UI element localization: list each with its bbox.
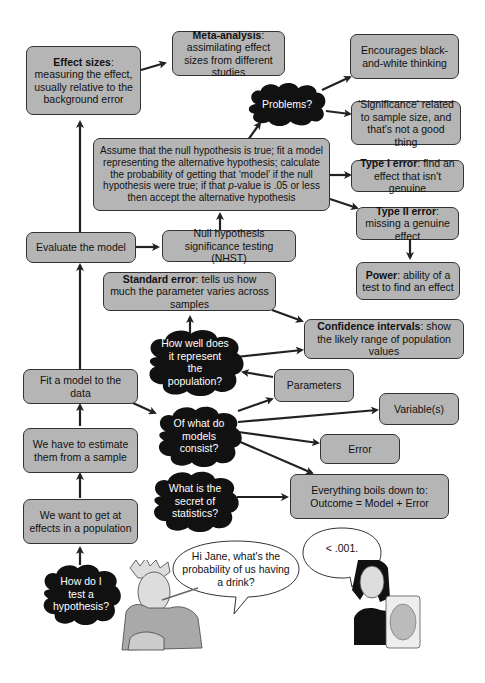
outcome-text-1: Everything boils down to: [310,484,428,497]
cloud-secret-statistics: What is the secret of statistics? [150,470,240,532]
nhst-text: Null hypothesis significance testing (NH… [168,227,290,265]
confidence-intervals-box: Confidence intervals: show the likely ra… [304,319,464,359]
cloud-how-well-represent: How well does it represent the populatio… [145,328,245,396]
how-well-text: How well does it represent the populatio… [160,337,230,387]
evaluate-model-box: Evaluate the model [26,232,136,263]
secret-text: What is the secret of statistics? [165,482,225,520]
evaluate-model-text: Evaluate the model [36,241,126,254]
standard-error-label: Standard error [123,273,196,285]
power-box: Power: ability of a test to find an effe… [356,262,460,300]
outcome-equation: Outcome = Model + Error [310,497,428,510]
meta-analysis-box: Meta-analysis: assimilating effect sizes… [172,31,285,76]
meta-analysis-label: Meta-analysis [193,29,262,41]
how-do-i-text: How do I test a hypothesis? [51,575,111,613]
parameters-box: Parameters [274,369,354,402]
cloud-how-test-hypothesis: How do I test a hypothesis? [40,563,122,625]
nhst-box: Null hypothesis significance testing (NH… [162,230,296,262]
of-what-text: Of what do models consist? [170,417,228,455]
cloud-problems: Problems? [246,82,328,126]
significance-text: 'Significance' related to sample size, a… [357,98,455,148]
fit-model-box: Fit a model to the data [23,369,138,404]
variables-text: Variable(s) [394,403,444,416]
power-label: Power [366,269,398,281]
speech-right-text: < .001. [326,542,358,555]
error-box: Error [320,434,400,464]
effect-sizes-label: Effect sizes [53,56,111,68]
type-ii-error-label: Type II error [376,205,436,217]
effects-population-box: We want to get at effects in a populatio… [23,499,138,544]
cartoon-jane-figure [350,560,425,655]
outcome-equation-box: Everything boils down to:Outcome = Model… [290,474,449,519]
estimate-sample-box: We have to estimate them from a sample [23,428,138,473]
estimate-sample-text: We have to estimate them from a sample [29,438,132,463]
error-text: Error [348,443,371,456]
black-white-thinking-text: Encourages black-and-white thinking [356,44,453,69]
effects-population-text: We want to get at effects in a populatio… [29,509,132,534]
black-white-thinking-box: Encourages black-and-white thinking [350,34,459,79]
cartoon-student-figure [118,560,213,660]
standard-error-box: Standard error: tells us how much the pa… [103,272,276,311]
confidence-intervals-label: Confidence intervals [317,320,420,332]
significance-sample-size-box: 'Significance' related to sample size, a… [351,101,461,145]
assume-null-hypothesis-box: Assume that the null hypothesis is true;… [93,138,330,211]
type-ii-error-box: Type II error: missing a genuine effect [356,207,459,240]
fit-model-text: Fit a model to the data [29,374,132,399]
effect-sizes-box: Effect sizes: measuring the effect, usua… [26,46,141,115]
variables-box: Variable(s) [379,393,459,425]
type-i-error-box: Type I error: find an effect that isn't … [351,160,464,192]
parameters-text: Parameters [287,379,341,392]
problems-text: Problems? [262,98,312,111]
type-i-error-label: Type I error [360,157,417,169]
cloud-of-what-models: Of what do models consist? [155,405,243,467]
